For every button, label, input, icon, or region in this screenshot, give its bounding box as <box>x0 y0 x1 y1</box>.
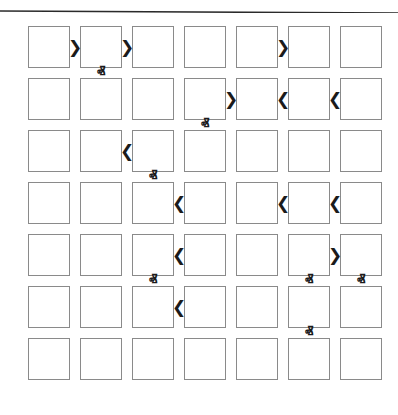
arrow-glyph: ❯ <box>224 91 238 108</box>
arrow-glyph: ❯ <box>328 247 342 264</box>
arrow-glyph: ❯ <box>120 39 134 56</box>
arrow-glyph: ⱏ <box>357 272 365 289</box>
arrow-horizontal-left-r6-c4-to-c3: ❮ <box>172 296 186 318</box>
arrow-glyph: ❮ <box>120 143 134 160</box>
arrow-vertical-down-c4-r4-to-r5: ⱟ <box>194 223 216 236</box>
arrow-horizontal-left-r2-c6-to-c5: ❮ <box>276 88 290 110</box>
arrow-glyph: ❯ <box>276 39 290 56</box>
arrow-layer: ❯❯❯❯❮❮❮❮❮❮❮❯❮ⱏⱟⱟⱏⱏⱟⱏⱏⱏⱟⱟⱏ <box>0 0 398 415</box>
arrow-horizontal-right-r1-c5-to-c6: ❯ <box>276 36 290 58</box>
arrow-horizontal-right-r2-c4-to-c5: ❯ <box>224 88 238 110</box>
arrow-horizontal-left-r3-c3-to-c2: ❮ <box>120 140 134 162</box>
arrow-horizontal-left-r2-c7-to-c6: ❮ <box>328 88 342 110</box>
arrow-glyph: ❮ <box>172 195 186 212</box>
arrow-glyph: ❮ <box>172 247 186 264</box>
arrow-horizontal-right-r1-c1-to-c2: ❯ <box>68 36 82 58</box>
diagram-canvas: ❯❯❯❯❮❮❮❮❮❮❮❯❮ⱏⱟⱟⱏⱏⱟⱏⱏⱏⱟⱟⱏ <box>0 0 398 415</box>
arrow-vertical-up-c6-r7-to-r6: ⱏ <box>298 327 320 340</box>
arrow-vertical-down-c3-r1-to-r2: ⱟ <box>142 67 164 80</box>
arrow-glyph: ⱏ <box>305 272 313 289</box>
arrow-glyph: ❯ <box>68 39 82 56</box>
arrow-glyph: ⱏ <box>201 116 209 133</box>
arrow-glyph: ❮ <box>328 195 342 212</box>
arrow-horizontal-left-r4-c6-to-c5: ❮ <box>276 192 290 214</box>
arrow-glyph: ⱏ <box>149 168 157 185</box>
arrow-vertical-up-c4-r3-to-r2: ⱏ <box>194 119 216 132</box>
arrow-vertical-up-c7-r6-to-r5: ⱏ <box>350 275 372 288</box>
arrow-glyph: ⱏ <box>305 324 313 341</box>
arrow-glyph: ❮ <box>276 91 290 108</box>
arrow-glyph: ❮ <box>328 91 342 108</box>
arrow-glyph: ⱏ <box>97 64 105 81</box>
arrow-horizontal-left-r4-c7-to-c6: ❮ <box>328 192 342 214</box>
arrow-vertical-down-c7-r1-to-r2: ⱟ <box>350 67 372 80</box>
arrow-horizontal-left-r5-c4-to-c3: ❮ <box>172 244 186 266</box>
arrow-vertical-up-c3-r6-to-r5: ⱏ <box>142 275 164 288</box>
arrow-vertical-down-c1-r7-to-r6: ⱟ <box>38 327 60 340</box>
arrow-vertical-down-c2-r7-to-r6: ⱟ <box>90 327 112 340</box>
arrow-glyph: ❮ <box>172 299 186 316</box>
arrow-vertical-up-c2-r2-to-r1: ⱏ <box>90 67 112 80</box>
arrow-vertical-up-c6-r6-to-r5: ⱏ <box>298 275 320 288</box>
arrow-glyph: ❮ <box>276 195 290 212</box>
arrow-horizontal-left-r4-c4-to-c3: ❮ <box>172 192 186 214</box>
arrow-vertical-up-c3-r4-to-r3: ⱏ <box>142 171 164 184</box>
arrow-horizontal-right-r5-c6-to-c7: ❯ <box>328 244 342 266</box>
arrow-glyph: ⱏ <box>149 272 157 289</box>
arrow-horizontal-right-r1-c2-to-c3: ❯ <box>120 36 134 58</box>
